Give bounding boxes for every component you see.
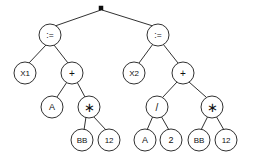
tree-edge-times-left-to-num-12-left: [93, 116, 106, 130]
node-label-times-right: ∗: [207, 100, 218, 115]
tree-node-plus-right: +: [172, 62, 194, 84]
tree-edge-root-to-assign-left: [55, 10, 101, 26]
node-label-assign-right: :=: [154, 30, 161, 40]
node-label-var-a-left: A: [49, 102, 55, 112]
tree-node-plus-left: +: [61, 62, 83, 84]
node-label-num-2: 2: [168, 135, 173, 145]
tree-node-times-right: ∗: [201, 96, 223, 118]
tree-edge-plus-left-to-var-a-left: [57, 82, 67, 97]
root-node-marker: [99, 6, 103, 10]
tree-node-var-bb-right: BB: [188, 129, 210, 151]
node-label-num-12-right: 12: [222, 136, 231, 145]
node-label-var-bb-right: BB: [194, 136, 204, 145]
tree-edge-root-to-assign-right: [102, 10, 153, 26]
tree-node-assign-left: :=: [39, 24, 61, 46]
tree-edge-assign-right-to-var-x2: [139, 44, 153, 63]
expression-tree-canvas: :=:=X1+X2+A∗/∗BB12A2BB12: [0, 0, 254, 160]
node-label-var-bb-left: BB: [77, 136, 87, 145]
node-label-plus-left: +: [69, 68, 75, 79]
tree-edge-assign-left-to-plus-left: [54, 45, 68, 63]
tree-edge-divide-to-var-a-right: [147, 116, 153, 130]
tree-edge-assign-left-to-var-x1: [29, 45, 46, 63]
node-label-num-12-left: 12: [105, 136, 114, 145]
tree-node-num-2: 2: [160, 129, 182, 151]
tree-node-var-a-left: A: [41, 96, 63, 118]
tree-edge-times-right-to-num-12-right: [216, 116, 224, 130]
tree-edge-plus-left-to-times-left: [77, 82, 85, 97]
tree-node-var-bb-left: BB: [71, 129, 93, 151]
tree-edge-times-left-to-var-bb-left: [84, 117, 86, 130]
tree-node-var-a-right: A: [134, 129, 156, 151]
node-label-divide: /: [156, 102, 159, 113]
tree-node-assign-right: :=: [147, 24, 169, 46]
tree-edge-divide-to-num-2: [161, 116, 169, 130]
tree-node-times-left: ∗: [78, 96, 100, 118]
tree-nodes: :=:=X1+X2+A∗/∗BB12A2BB12: [14, 24, 237, 151]
node-label-assign-left: :=: [46, 30, 53, 40]
tree-node-var-x2: X2: [123, 62, 145, 84]
tree-edge-times-right-to-var-bb-right: [201, 116, 208, 130]
node-label-plus-right: +: [180, 68, 186, 79]
tree-node-var-x1: X1: [14, 62, 36, 84]
expression-tree-figure: :=:=X1+X2+A∗/∗BB12A2BB12: [0, 0, 254, 160]
tree-node-num-12-right: 12: [215, 129, 237, 151]
node-label-times-left: ∗: [84, 100, 95, 115]
node-label-var-x2: X2: [129, 69, 139, 78]
tree-node-num-12-left: 12: [98, 129, 120, 151]
node-label-var-a-right: A: [142, 135, 148, 145]
tree-edge-plus-right-to-times-right: [189, 82, 206, 97]
tree-node-divide: /: [146, 96, 168, 118]
tree-root-marker: [99, 6, 103, 10]
tree-edge-plus-right-to-divide: [163, 82, 177, 97]
node-label-var-x1: X1: [20, 69, 30, 78]
tree-edge-assign-right-to-plus-right: [163, 44, 178, 63]
